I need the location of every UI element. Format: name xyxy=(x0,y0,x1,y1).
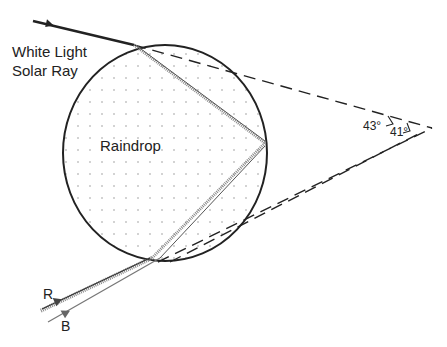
solar-ray-label-line2: Solar Ray xyxy=(12,61,78,80)
red-label: R xyxy=(43,287,53,301)
raindrop xyxy=(63,45,267,261)
raindrop-label: Raindrop xyxy=(100,138,161,153)
exit-rays xyxy=(40,258,160,322)
blue-arrow-icon xyxy=(61,307,72,319)
angle-41-label: 41° xyxy=(390,126,408,138)
arrow-icon xyxy=(45,19,55,29)
blue-label: B xyxy=(61,319,70,333)
angle-43-label: 43° xyxy=(363,120,381,132)
solar-ray-label-line1: White Light xyxy=(12,42,87,61)
